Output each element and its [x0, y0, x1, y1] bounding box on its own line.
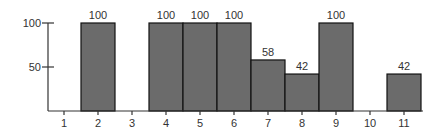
bars-group: [81, 23, 421, 111]
x-tick-label-4: 4: [163, 117, 169, 129]
data-label-6: 100: [225, 9, 243, 21]
x-tick-label-2: 2: [95, 117, 101, 129]
bar-4: [149, 23, 183, 111]
x-tick-label-6: 6: [231, 117, 237, 129]
bar-11: [387, 74, 421, 111]
bar-chart: 100100100100584210042 50100 123456789101…: [0, 0, 444, 133]
data-label-7: 58: [262, 46, 274, 58]
data-label-2: 100: [89, 9, 107, 21]
y-tick-label-50: 50: [29, 61, 41, 73]
x-tick-label-10: 10: [364, 117, 376, 129]
data-label-8: 42: [296, 60, 308, 72]
data-label-9: 100: [327, 9, 345, 21]
data-label-11: 42: [398, 60, 410, 72]
x-tick-label-9: 9: [333, 117, 339, 129]
data-label-5: 100: [191, 9, 209, 21]
x-tick-label-1: 1: [61, 117, 67, 129]
bar-2: [81, 23, 115, 111]
x-tick-label-7: 7: [265, 117, 271, 129]
x-tick-label-3: 3: [129, 117, 135, 129]
bar-8: [285, 74, 319, 111]
bar-5: [183, 23, 217, 111]
y-tick-label-100: 100: [23, 17, 41, 29]
y-axis-ticks: 50100: [23, 17, 54, 73]
x-tick-label-5: 5: [197, 117, 203, 129]
x-tick-label-8: 8: [299, 117, 305, 129]
data-label-4: 100: [157, 9, 175, 21]
bar-7: [251, 60, 285, 111]
bar-9: [319, 23, 353, 111]
x-axis-ticks: 1234567891011: [61, 111, 410, 129]
bar-6: [217, 23, 251, 111]
x-tick-label-11: 11: [398, 117, 409, 129]
